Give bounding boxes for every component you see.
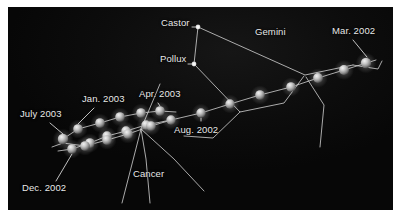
apr-2003-label: Apr. 2003 [139, 89, 181, 99]
star-chart-svg [8, 7, 393, 210]
gemini-label: Gemini [255, 27, 286, 37]
star-chart-panel: CastorPolluxGeminiCancerMar. 2002Aug. 20… [8, 7, 393, 210]
cancer-label: Cancer [133, 169, 164, 179]
planet-marker-16 [136, 108, 146, 118]
gemini-line-castor-pollux [194, 27, 198, 64]
planet-marker-13 [73, 124, 83, 134]
cancer-line-right [141, 129, 204, 191]
planet-marker-4 [255, 90, 265, 100]
gemini-line-east-down [306, 77, 324, 147]
planet-markers-group [53, 53, 377, 159]
planet-marker-18 [146, 121, 156, 131]
label-leader-lines-group [50, 27, 367, 181]
figure-canvas: CastorPolluxGeminiCancerMar. 2002Aug. 20… [0, 0, 400, 217]
mar-2002-label: Mar. 2002 [332, 26, 375, 36]
planet-marker-17 [155, 106, 165, 116]
planet-marker-1 [339, 65, 349, 75]
star-marker-pollux [192, 62, 197, 67]
aug-2002-label: Aug. 2002 [174, 125, 218, 135]
planet-marker-21 [80, 141, 90, 151]
planet-marker-5 [225, 99, 234, 108]
planet-marker-3 [286, 82, 296, 92]
castor-label: Castor [161, 18, 190, 28]
planet-marker-2 [313, 73, 323, 83]
planet-marker-6 [196, 108, 205, 117]
planet-marker-22 [58, 134, 68, 144]
july-2003-label: July 2003 [20, 109, 62, 119]
cancer-line-down [141, 129, 150, 203]
pollux-label: Pollux [160, 54, 186, 64]
dec-2002-label: Dec. 2002 [22, 183, 66, 193]
planet-marker-15 [115, 112, 125, 122]
star-marker-castor [196, 25, 201, 30]
planet-marker-14 [95, 118, 105, 128]
planet-marker-19 [123, 129, 133, 139]
planet-marker-0 [361, 58, 371, 68]
planet-marker-20 [102, 135, 112, 145]
jan-2003-label: Jan. 2003 [82, 94, 125, 104]
